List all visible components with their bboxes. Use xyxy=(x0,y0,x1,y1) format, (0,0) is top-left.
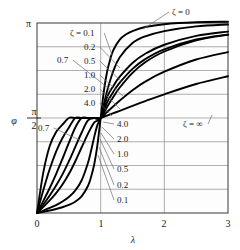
curve-annotation-6: 1.0 xyxy=(84,70,96,80)
x-tick-0: 0 xyxy=(35,218,40,229)
curve-annotation-11: 2.0 xyxy=(117,134,129,144)
x-tick-1: 1 xyxy=(99,218,104,229)
curve-annotation-12: 1.0 xyxy=(117,149,129,159)
curve-annotation-10: 4.0 xyxy=(117,119,129,129)
curve-annotation-5: 0.7 xyxy=(57,55,69,65)
curve-annotation-9: 0.7 xyxy=(38,123,50,133)
curve-annotation-0: ζ = 0 xyxy=(172,7,190,17)
y-tick-pi-over-2-numerator: π xyxy=(31,106,36,117)
curve-annotation-2: ζ = 0.1 xyxy=(70,28,95,38)
curve-annotation-1: ζ = ∞ xyxy=(183,119,203,129)
y-tick-pi: π xyxy=(26,18,31,29)
y-tick-pi-over-2-denominator: 2 xyxy=(32,120,37,131)
curve-annotation-7: 2.0 xyxy=(84,84,96,94)
y-axis-title: φ xyxy=(11,115,17,126)
x-axis-title: λ xyxy=(130,234,136,245)
curve-annotation-13: 0.5 xyxy=(117,164,129,174)
x-tick-2: 2 xyxy=(162,218,167,229)
chart-svg: ζ = 0ζ = ∞ζ = 0.10.20.50.71.02.04.00.74.… xyxy=(0,0,240,250)
curve-annotation-4: 0.5 xyxy=(84,56,96,66)
x-tick-3: 3 xyxy=(226,218,231,229)
curve-annotation-15: 0.1 xyxy=(117,195,128,205)
phase-angle-chart: ζ = 0ζ = ∞ζ = 0.10.20.50.71.02.04.00.74.… xyxy=(0,0,240,250)
curve-annotation-8: 4.0 xyxy=(84,98,96,108)
curve-annotation-14: 0.2 xyxy=(117,180,128,190)
curve-annotation-3: 0.2 xyxy=(84,42,95,52)
